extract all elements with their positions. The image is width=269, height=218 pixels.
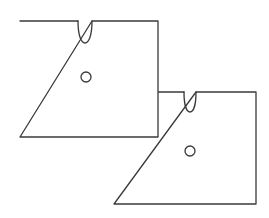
overlapping-cards-diagram bbox=[0, 0, 269, 218]
front-card bbox=[20, 21, 158, 137]
